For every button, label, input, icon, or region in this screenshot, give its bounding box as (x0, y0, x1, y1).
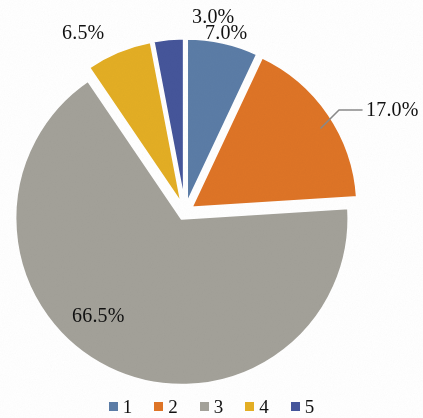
chart-legend: 12345 (0, 397, 423, 416)
legend-label-1: 1 (123, 397, 133, 416)
slice-label-4: 6.5% (62, 22, 104, 42)
legend-item-1[interactable]: 1 (109, 397, 133, 416)
legend-swatch-icon-3 (200, 402, 209, 411)
legend-item-2[interactable]: 2 (154, 397, 178, 416)
legend-swatch-icon-4 (245, 402, 254, 411)
legend-item-5[interactable]: 5 (291, 397, 315, 416)
legend-label-3: 3 (214, 397, 224, 416)
slice-label-3: 66.5% (72, 305, 125, 325)
legend-label-2: 2 (168, 397, 178, 416)
pie-chart: 3.0% 6.5% 7.0% 17.0% 66.5% 12345 (0, 0, 423, 418)
pie-chart-canvas (0, 0, 423, 418)
slice-label-1: 7.0% (205, 22, 247, 42)
legend-label-4: 4 (259, 397, 269, 416)
legend-item-4[interactable]: 4 (245, 397, 269, 416)
legend-item-3[interactable]: 3 (200, 397, 224, 416)
legend-swatch-icon-1 (109, 402, 118, 411)
legend-swatch-icon-5 (291, 402, 300, 411)
pie-slices-group (15, 38, 358, 385)
legend-swatch-icon-2 (154, 402, 163, 411)
slice-label-2: 17.0% (366, 99, 419, 119)
legend-label-5: 5 (305, 397, 315, 416)
